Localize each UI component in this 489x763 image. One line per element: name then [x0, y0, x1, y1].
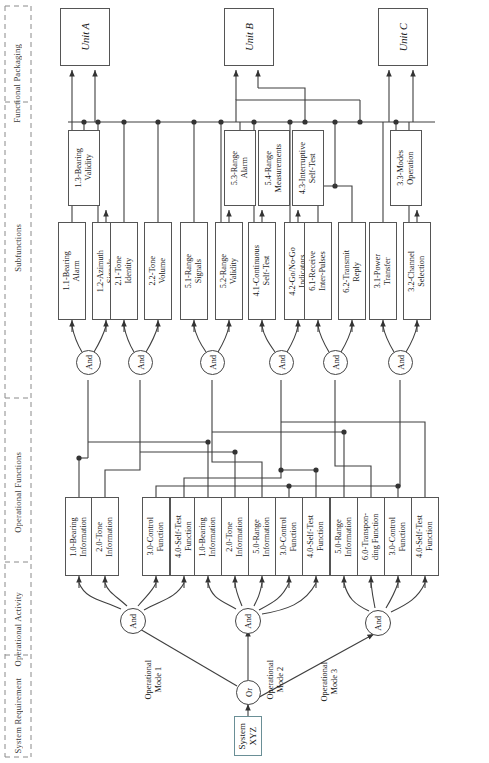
unit-b-box[interactable]: Unit B [224, 8, 274, 66]
subfunction-label: 6.1-Receive Inter-Pulses [308, 251, 328, 291]
subfunction-label: 5.2-Range Validity [219, 254, 239, 288]
column-header-system-requirement: System Requirement [0, 678, 57, 755]
operational-function-label: 4.0-Self-Test Function [306, 515, 326, 558]
subfunction-label: 4.1-Continuous Self-Test [252, 245, 272, 296]
subfunction-5-1-box[interactable]: 5.1-Range Signals [180, 222, 208, 320]
and-gate-mode-1[interactable]: And [120, 608, 146, 634]
unit-a-box[interactable]: Unit A [60, 8, 110, 66]
and-gate-label: And [396, 355, 406, 370]
unit-b-label: Unit B [244, 23, 255, 51]
subfunction-label: 2.1-Tone Identity [114, 256, 134, 286]
unit-a-label: Unit A [80, 23, 91, 51]
unit-c-label: Unit C [398, 23, 409, 51]
subfunction-6-1-box[interactable]: 6.1-Receive Inter-Pulses [304, 222, 332, 320]
subfunction-3-3-box[interactable]: 3.3-Modes Operation [390, 130, 422, 206]
subfunction-4-3-box[interactable]: 4.3-Interruptive Self-Test [292, 130, 324, 206]
and-gate-sf-1[interactable]: And [76, 350, 101, 375]
operational-function-label: 3.0-Control Function [388, 517, 408, 556]
column-header-label: Operational Functions [13, 452, 23, 533]
and-gate-label: And [277, 355, 287, 370]
and-gate-label: And [331, 355, 341, 370]
operational-function-2-0-tone-a[interactable]: 2.0-Tone Information [91, 497, 119, 576]
subfunction-2-1-box[interactable]: 2.1-Tone Identity [110, 222, 138, 320]
operational-function-6-0-transponding[interactable]: 6.0-Transpon- ding Function [357, 497, 385, 576]
operational-function-label: 2.0-Tone Information [225, 517, 245, 557]
subfunction-label: 5.4-Range Measurements [264, 144, 284, 192]
subfunction-2-2-box[interactable]: 2.2-Tone Volume [144, 222, 172, 320]
operational-function-5-0-range-a[interactable]: 5.0-Range Information [248, 497, 276, 576]
operational-function-label: 3.0-Control Function [279, 517, 299, 556]
operational-function-label: 6.0-Transpon- ding Function [361, 513, 381, 560]
operational-function-3-0-control-b[interactable]: 3.0-Control Function [275, 497, 303, 576]
subfunction-label: 3.3-Modes Operation [396, 150, 416, 186]
subfunction-5-4-box[interactable]: 5.4-Range Measurements [258, 130, 290, 206]
subfunction-3-1-box[interactable]: 3.1-Power Transfer [369, 222, 397, 320]
subfunction-5-2-box[interactable]: 5.2-Range Validity [215, 222, 243, 320]
subfunction-3-2-box[interactable]: 3.2-Channel Selection [403, 222, 431, 320]
and-gate-label: And [128, 614, 138, 629]
subfunction-label: 2.2-Tone Volume [148, 256, 168, 286]
subfunction-label: 6.2-Transmit Reply [342, 250, 362, 293]
mode-label-text: Operational Mode 2 [266, 660, 286, 700]
and-gate-sf-6[interactable]: And [388, 350, 413, 375]
operational-function-3-0-control-a[interactable]: 3.0-Control Function [142, 497, 170, 576]
and-gate-label: And [84, 355, 94, 370]
column-header-operational-functions: Operational Functions [0, 452, 58, 535]
operational-function-4-0-selftest-c[interactable]: 4.0-Self-Test Function [411, 497, 439, 576]
subfunction-label: 5.3-Range Alarm [230, 151, 250, 185]
column-header-label: Functional Packaging [12, 44, 22, 123]
subfunction-4-1-box[interactable]: 4.1-Continuous Self-Test [248, 222, 276, 320]
subfunction-label: 5.1-Range Signals [184, 254, 204, 288]
and-gate-label: And [208, 355, 218, 370]
column-header-subfunctions: Subfunctions [0, 224, 66, 274]
operational-function-label: 2.0-Tone Information [95, 517, 115, 557]
subfunction-6-2-box[interactable]: 6.2-Transmit Reply [338, 222, 366, 320]
and-gate-label: And [243, 614, 253, 629]
operational-function-1-0-bearing-a[interactable]: 1.0-Bearing Information [65, 497, 93, 576]
system-requirement-box[interactable]: System XYZ [234, 716, 262, 756]
operational-function-3-0-control-c[interactable]: 3.0-Control Function [384, 497, 412, 576]
subfunction-1-3-box[interactable]: 1.3-Bearing Validity [68, 130, 100, 206]
operational-function-5-0-range-b[interactable]: 5.0-Range Information [330, 497, 358, 576]
subfunction-label: 1.1-Bearing Alarm [62, 251, 82, 290]
operational-function-label: 3.0-Control Function [146, 517, 166, 556]
operational-function-4-0-selftest-b[interactable]: 4.0-Self-Test Function [302, 497, 330, 576]
diagram-canvas: Functional Packaging Subfunctions Operat… [0, 0, 489, 763]
and-gate-label: And [136, 355, 146, 370]
and-gate-sf-3[interactable]: And [200, 350, 225, 375]
and-gate-label: And [373, 616, 383, 631]
connector-layer [0, 0, 489, 763]
subfunction-label: 1.3-Bearing Validity [74, 148, 94, 187]
operational-mode-1-label: Operational Mode 1 [124, 650, 184, 703]
mode-label-text: Operational Mode 3 [320, 662, 340, 702]
mode-label-text: Operational Mode 1 [144, 660, 164, 700]
and-gate-mode-2[interactable]: And [235, 608, 261, 634]
and-gate-sf-5[interactable]: And [323, 350, 348, 375]
operational-function-label: 1.0-Bearing Information [69, 517, 89, 557]
operational-function-label: 1.0-Bearing Information [198, 517, 218, 557]
column-header-functional-packaging: Functional Packaging [0, 44, 62, 125]
subfunction-label: 4.3-Interruptive Self-Test [298, 142, 318, 194]
and-gate-sf-2[interactable]: And [128, 350, 153, 375]
subfunction-1-1-box[interactable]: 1.1-Bearing Alarm [58, 222, 86, 320]
subfunction-label: 3.2-Channel Selection [407, 251, 427, 292]
system-requirement-label: System XYZ [237, 723, 259, 750]
subfunction-label: 3.1-Power Transfer [373, 254, 393, 288]
subfunction-5-3-box[interactable]: 5.3-Range Alarm [224, 130, 256, 206]
and-gate-mode-3[interactable]: And [365, 610, 391, 636]
operational-function-1-0-bearing-b[interactable]: 1.0-Bearing Information [194, 497, 222, 576]
and-gate-sf-4[interactable]: And [269, 350, 294, 375]
operational-function-label: 5.0-Range Information [252, 517, 272, 557]
operational-function-label: 4.0-Self-Test Function [415, 515, 435, 558]
operational-mode-2-label: Operational Mode 2 [246, 650, 306, 703]
operational-function-2-0-tone-b[interactable]: 2.0-Tone Information [221, 497, 249, 576]
column-header-label: Operational Activity [13, 592, 23, 666]
unit-c-box[interactable]: Unit C [378, 8, 428, 66]
operational-function-label: 4.0-Self-Test Function [174, 515, 194, 558]
column-header-label: System Requirement [13, 678, 23, 753]
operational-mode-3-label: Operational Mode 3 [300, 652, 360, 705]
column-header-label: Subfunctions [13, 224, 23, 272]
column-header-operational-activity: Operational Activity [0, 592, 56, 668]
operational-function-label: 5.0-Range Information [334, 517, 354, 557]
